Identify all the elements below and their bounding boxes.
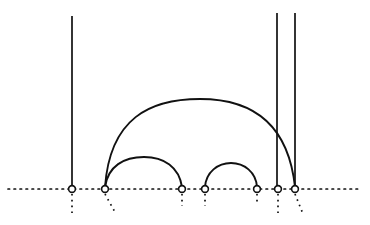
node-circle-3[interactable] (179, 186, 186, 193)
arc-node2-to-node7 (105, 99, 295, 187)
descenders-group (72, 194, 303, 215)
node-circle-6[interactable] (275, 186, 282, 193)
arc-node4-to-node5 (205, 163, 257, 187)
arcs-group (105, 99, 295, 187)
descender-node-7 (295, 194, 303, 214)
nodes-group (69, 186, 299, 193)
node-circle-2[interactable] (102, 186, 109, 193)
node-circle-1[interactable] (69, 186, 76, 193)
node-circle-4[interactable] (202, 186, 209, 193)
arc-diagram-figure (0, 0, 370, 225)
descender-node-2 (105, 194, 116, 214)
node-circle-7[interactable] (292, 186, 299, 193)
arc-node2-to-node3 (105, 157, 182, 187)
node-circle-5[interactable] (254, 186, 261, 193)
arc-diagram-canvas (0, 0, 370, 225)
